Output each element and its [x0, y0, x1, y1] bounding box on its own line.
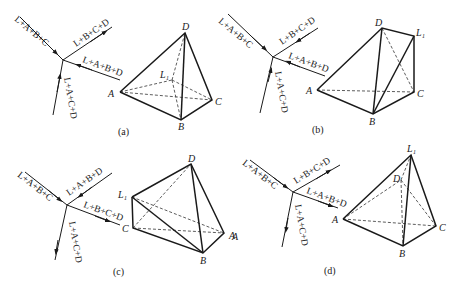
vertex-label-a: A — [305, 85, 313, 96]
stream-label: L+A+B+C — [13, 14, 51, 48]
vertex-label-l1: L₁ — [117, 189, 127, 200]
stream-label: L+A+C+D — [62, 77, 79, 120]
vertex-label-l1: L₁ — [159, 69, 169, 80]
vertex-label-c: C — [215, 96, 222, 107]
stream-junction-d: L+A+B+C L+B+C+D L+A+B+D L+A+C+D A — [231, 155, 348, 247]
vertex-label-a: A — [107, 88, 115, 99]
vertex-label-d: D — [392, 173, 401, 184]
tetrahedron-a: D A B C L₁ — [107, 21, 222, 132]
vertex-label-a: A — [331, 214, 339, 225]
vertex-label-d: D — [187, 153, 196, 164]
vertex-label-b: B — [200, 255, 206, 266]
caption-a: (a) — [118, 126, 129, 138]
vertex-label-c: C — [417, 88, 424, 99]
caption-c: (c) — [113, 266, 124, 278]
panel-c: L+A+B+C L+A+B+D L+B+C+D L+A+C+D D L₁ C B… — [16, 153, 236, 278]
stream-junction-b: L+A+B+C L+B+C+D L+A+B+D L+A+C+D — [217, 14, 331, 114]
vertex-label-d: D — [374, 17, 383, 28]
vertex-label-d: D — [181, 21, 190, 32]
stream-label: L+A+C+D — [67, 221, 84, 264]
vertex-label-b: B — [399, 248, 405, 259]
stream-label: L+A+B+D — [287, 50, 330, 74]
arrow-icon — [57, 76, 60, 92]
stream-label: L+A+C+D — [273, 71, 290, 114]
vertex-label-l1: L₁ — [415, 27, 425, 38]
vertex-label-b: B — [178, 121, 184, 132]
panel-a: L+A+B+C L+B+C+D L+A+B+D L+A+C+D D A B C … — [13, 14, 222, 138]
tetrahedron-c: D L₁ C B A — [117, 153, 236, 266]
tetrahedron-d: L₁ D A C B — [331, 143, 446, 259]
stream-label: L+B+C+D — [71, 17, 111, 49]
stream-junction-a: L+A+B+C L+B+C+D L+A+B+D L+A+C+D — [13, 14, 125, 120]
panel-d: L+A+B+C L+B+C+D L+A+B+D L+A+C+D A L₁ D A… — [231, 143, 446, 277]
caption-d: (d) — [324, 265, 336, 277]
stream-junction-c: L+A+B+C L+A+B+D L+B+C+D L+A+C+D — [16, 165, 125, 263]
stream-label: L+A+C+D — [293, 204, 310, 247]
vertex-label-c: C — [122, 223, 129, 234]
vertex-label-l1: L₁ — [406, 143, 416, 154]
phase-diagram-figure: L+A+B+C L+B+C+D L+A+B+D L+A+C+D D A B C … — [0, 0, 457, 288]
caption-b: (b) — [312, 124, 324, 136]
stream-label: L+A+B+D — [305, 185, 348, 209]
vertex-label-c: C — [439, 222, 446, 233]
panel-b: L+A+B+C L+B+C+D L+A+B+D L+A+C+D D L₁ A C… — [217, 14, 425, 136]
stray-label: A — [231, 231, 239, 242]
stream-label: L+A+B+D — [81, 54, 124, 78]
stream-label: L+A+B+C — [16, 170, 55, 203]
stream-label: L+A+B+C — [241, 158, 280, 191]
vertex-label-b: B — [369, 116, 375, 127]
